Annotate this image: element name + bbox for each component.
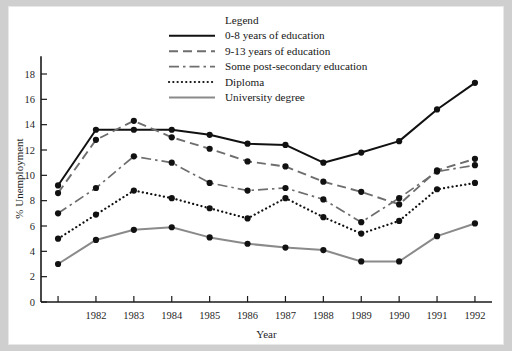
data-point-marker	[472, 162, 478, 168]
x-axis-tick-label: 1986	[237, 310, 258, 321]
x-axis-tick-label: 1990	[389, 310, 410, 321]
data-point-marker	[93, 212, 99, 218]
data-point-marker	[93, 237, 99, 243]
data-point-marker	[320, 196, 326, 202]
data-point-marker	[55, 210, 61, 216]
data-point-marker	[396, 138, 402, 144]
data-point-marker	[244, 215, 250, 221]
data-point-marker	[282, 244, 288, 250]
legend-layer: Legend0-8 years of education9-13 years o…	[169, 14, 368, 103]
data-point-marker	[434, 168, 440, 174]
y-axis-tick-label: 14	[25, 119, 36, 130]
data-point-marker	[472, 80, 478, 86]
data-point-marker	[320, 214, 326, 220]
data-point-marker	[434, 233, 440, 239]
data-point-marker	[320, 160, 326, 166]
series-line-3	[58, 183, 475, 239]
markers-layer	[55, 80, 478, 267]
y-axis-tick-label: 8	[30, 195, 35, 206]
data-point-marker	[93, 185, 99, 191]
y-axis-tick-label: 2	[30, 271, 35, 282]
data-point-marker	[169, 160, 175, 166]
data-point-marker	[434, 186, 440, 192]
data-point-marker	[396, 195, 402, 201]
data-point-marker	[244, 158, 250, 164]
data-point-marker	[169, 224, 175, 230]
legend-label-1: 9-13 years of education	[225, 45, 331, 57]
data-point-marker	[169, 127, 175, 133]
data-point-marker	[131, 187, 137, 193]
data-point-marker	[396, 201, 402, 207]
data-point-marker	[358, 149, 364, 155]
data-point-marker	[358, 219, 364, 225]
data-point-marker	[131, 227, 137, 233]
series-layer	[58, 83, 475, 264]
legend-label-0: 0-8 years of education	[225, 29, 325, 41]
data-point-marker	[244, 141, 250, 147]
x-axis-tick-label: 1988	[313, 310, 334, 321]
data-point-marker	[472, 156, 478, 162]
data-point-marker	[131, 127, 137, 133]
x-axis-tick-label: 1985	[199, 310, 220, 321]
y-axis-tick-label: 0	[30, 297, 35, 308]
data-point-marker	[131, 118, 137, 124]
legend-title: Legend	[225, 14, 259, 26]
y-axis-tick-label: 4	[30, 246, 36, 257]
series-line-1	[58, 121, 475, 205]
x-axis-tick-label: 1987	[275, 310, 296, 321]
data-point-marker	[55, 236, 61, 242]
data-point-marker	[358, 189, 364, 195]
data-point-marker	[434, 106, 440, 112]
x-axis-tick-label: 1984	[161, 310, 183, 321]
data-point-marker	[282, 142, 288, 148]
x-axis-tick-label: 1983	[123, 310, 144, 321]
y-axis-title: % Unemployment	[13, 138, 25, 218]
data-point-marker	[358, 231, 364, 237]
unemployment-by-education-line-chart: 0246810121416181982198319841985198619871…	[9, 7, 503, 344]
y-axis-tick-label: 12	[25, 145, 36, 156]
data-point-marker	[207, 132, 213, 138]
data-point-marker	[282, 185, 288, 191]
data-point-marker	[131, 153, 137, 159]
data-point-marker	[93, 127, 99, 133]
data-point-marker	[396, 218, 402, 224]
data-point-marker	[396, 258, 402, 264]
legend-label-4: University degree	[225, 91, 305, 103]
data-point-marker	[169, 195, 175, 201]
legend-label-2: Some post-secondary education	[225, 60, 368, 72]
data-point-marker	[169, 134, 175, 140]
legend-label-3: Diploma	[225, 76, 264, 88]
series-line-4	[58, 223, 475, 264]
series-line-2	[58, 156, 475, 222]
data-point-marker	[55, 182, 61, 188]
data-point-marker	[320, 247, 326, 253]
data-point-marker	[207, 146, 213, 152]
data-point-marker	[207, 234, 213, 240]
figure-background: 0246810121416181982198319841985198619871…	[0, 0, 512, 351]
y-axis-tick-label: 16	[25, 94, 36, 105]
chart-plate: 0246810121416181982198319841985198619871…	[9, 7, 503, 344]
x-axis-tick-label: 1992	[464, 310, 485, 321]
x-axis-tick-label: 1991	[427, 310, 448, 321]
y-axis-tick-label: 10	[25, 170, 36, 181]
x-axis-title: Year	[256, 328, 277, 340]
data-point-marker	[93, 137, 99, 143]
data-point-marker	[320, 179, 326, 185]
data-point-marker	[207, 205, 213, 211]
x-axis-tick-label: 1989	[351, 310, 372, 321]
data-point-marker	[282, 163, 288, 169]
y-axis-tick-label: 18	[25, 69, 36, 80]
data-point-marker	[244, 187, 250, 193]
data-point-marker	[55, 190, 61, 196]
data-point-marker	[207, 180, 213, 186]
data-point-marker	[472, 220, 478, 226]
data-point-marker	[472, 180, 478, 186]
data-point-marker	[358, 258, 364, 264]
data-point-marker	[244, 241, 250, 247]
x-axis-tick-label: 1982	[85, 310, 106, 321]
data-point-marker	[55, 261, 61, 267]
data-point-marker	[282, 195, 288, 201]
y-axis-tick-label: 6	[30, 221, 35, 232]
